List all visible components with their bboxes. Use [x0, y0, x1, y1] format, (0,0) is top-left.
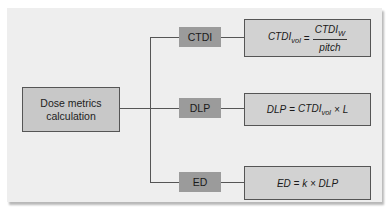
formula-dlp-rest: × L: [334, 104, 348, 115]
formula-dlp-term: CTDIvol: [298, 103, 331, 117]
root-node-dose-metrics: Dose metrics calculation: [22, 87, 120, 132]
formula-ctdi-eq: =: [304, 33, 310, 44]
formula-ed-text: ED = k × DLP: [277, 178, 338, 189]
formula-dlp-lhs: DLP: [267, 104, 286, 115]
node-dlp-label: DLP: [190, 102, 210, 114]
formula-ctdi-numerator: CTDIW: [313, 24, 347, 40]
formula-ctdi-fraction: CTDIW pitch: [313, 24, 347, 53]
formula-dlp-eq: =: [289, 104, 295, 115]
connector-trunk-to-dlp: [150, 108, 179, 109]
formula-dlp: DLP = CTDIvol × L: [244, 93, 371, 126]
node-ed-label: ED: [193, 176, 208, 188]
formula-ctdi-vol: CTDIvol = CTDIW pitch: [244, 19, 371, 57]
formula-ctdi-denominator: pitch: [319, 40, 340, 53]
connector-ctdi-to-formula: [221, 37, 244, 38]
connector-dlp-to-formula: [221, 108, 244, 109]
node-ctdi-label: CTDI: [188, 31, 213, 43]
root-label-line1: Dose metrics: [40, 97, 101, 110]
connector-trunk-vertical: [150, 37, 151, 183]
formula-ed: ED = k × DLP: [244, 166, 371, 200]
connector-ed-to-formula: [221, 182, 244, 183]
root-label-line2: calculation: [46, 110, 96, 123]
node-dlp: DLP: [179, 98, 221, 118]
formula-ctdi-lhs: CTDIvol: [268, 31, 301, 45]
node-ed: ED: [179, 172, 221, 192]
connector-root-to-trunk: [118, 108, 151, 109]
node-ctdi: CTDI: [179, 27, 221, 47]
connector-trunk-to-ctdi: [150, 37, 179, 38]
connector-trunk-to-ed: [150, 182, 179, 183]
